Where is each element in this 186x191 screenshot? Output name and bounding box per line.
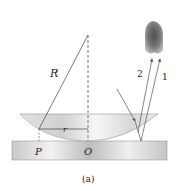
label-ray-2: 2: [137, 69, 143, 79]
label-r-big: R: [49, 67, 58, 80]
label-o: O: [84, 146, 92, 157]
label-ray-1: 1: [162, 72, 168, 82]
newtons-rings-diagram: R r P O 2 1 (a): [0, 0, 186, 191]
eye-icon: [145, 21, 163, 54]
figure-caption: (a): [82, 174, 94, 184]
label-p: P: [34, 146, 42, 157]
